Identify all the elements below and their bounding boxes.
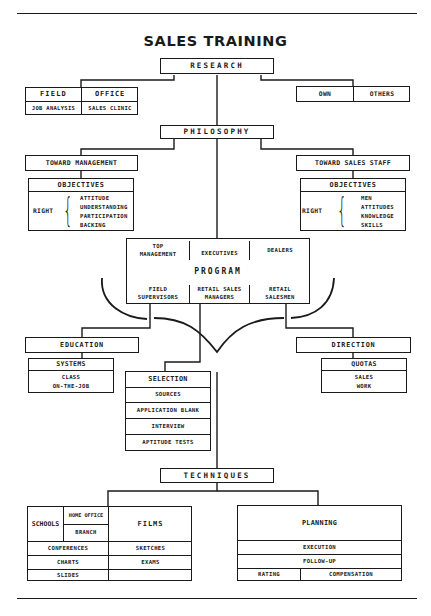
technique-cell: CONFERENCES — [28, 542, 108, 555]
techniques-right-table: PLANNING EXECUTION FOLLOW-UP RATING COMP… — [237, 505, 402, 581]
planning-label: PLANNING — [238, 506, 401, 540]
program-retail-salesmen: RETAIL SALESMEN — [250, 283, 310, 304]
selection-item: INTERVIEW — [126, 419, 210, 434]
toward-sales-staff-box: TOWARD SALES STAFF — [296, 155, 410, 171]
philosophy-box: PHILOSOPHY — [160, 125, 274, 139]
selection-item: APTITUDE TESTS — [126, 435, 210, 450]
own-label: OWN — [297, 87, 353, 101]
sales-clinic-label: SALES CLINIC — [82, 102, 138, 115]
program-retail-sales-managers: RETAIL SALES MANAGERS — [190, 283, 249, 304]
systems-label: SYSTEMS — [29, 359, 113, 370]
objective-item: SKILLS — [361, 221, 405, 230]
objective-item: PARTICIPATION — [80, 212, 134, 221]
office-label: OFFICE — [82, 88, 138, 101]
selection-item: SOURCES — [126, 388, 210, 402]
technique-cell: SLIDES — [28, 570, 108, 581]
objective-item: ATTITUDE — [80, 194, 134, 203]
education-label: EDUCATION — [26, 338, 138, 352]
toward-management-box: TOWARD MANAGEMENT — [25, 155, 138, 171]
field-office-box: FIELD OFFICE JOB ANALYSIS SALES CLINIC — [25, 87, 138, 115]
objective-item: KNOWLEDGE — [361, 212, 405, 221]
quotas-item: SALES — [322, 373, 406, 382]
schools-label: SCHOOLS — [28, 507, 63, 541]
program-dealers: DEALERS — [250, 245, 310, 257]
research-label: RESEARCH — [161, 59, 273, 73]
selection-label: SELECTION — [126, 372, 210, 387]
brace-icon: { — [337, 193, 341, 230]
direction-box: DIRECTION — [296, 337, 411, 353]
program-label: PROGRAM — [127, 265, 309, 279]
own-others-box: OWN OTHERS — [296, 86, 410, 102]
program-executives: EXECUTIVES — [190, 248, 249, 260]
films-label: FILMS — [109, 507, 192, 541]
program-field-supervisors: FIELD SUPERVISORS — [127, 283, 189, 304]
quotas-label: QUOTAS — [322, 359, 406, 370]
systems-item: CLASS — [29, 373, 113, 382]
branch-label: BRANCH — [64, 525, 108, 541]
technique-cell — [109, 570, 192, 581]
right-label: RIGHT — [302, 192, 326, 231]
management-objectives-box: OBJECTIVES RIGHT { ATTITUDE UNDERSTANDIN… — [28, 178, 134, 231]
toward-management-label: TOWARD MANAGEMENT — [26, 156, 137, 170]
job-analysis-label: JOB ANALYSIS — [26, 102, 81, 115]
home-office-label: HOME OFFICE — [64, 507, 108, 524]
program-top-management: TOP MANAGEMENT — [127, 241, 189, 261]
techniques-box: TECHNIQUES — [160, 468, 274, 483]
brace-icon: { — [63, 193, 67, 230]
quotas-box: QUOTAS SALES WORK — [321, 358, 407, 393]
field-label: FIELD — [26, 88, 81, 101]
philosophy-label: PHILOSOPHY — [161, 126, 273, 138]
toward-sales-staff-label: TOWARD SALES STAFF — [297, 156, 409, 170]
systems-item: ON-THE-JOB — [29, 382, 113, 391]
research-box: RESEARCH — [160, 58, 274, 74]
objectives-label: OBJECTIVES — [29, 179, 133, 191]
others-label: OTHERS — [354, 87, 410, 101]
objectives-label: OBJECTIVES — [301, 179, 405, 191]
right-label: RIGHT — [33, 192, 57, 231]
quotas-item: WORK — [322, 382, 406, 391]
staff-objectives-box: OBJECTIVES RIGHT { MEN ATTITUDES KNOWLED… — [300, 178, 406, 231]
objective-item: MEN — [361, 194, 405, 203]
direction-label: DIRECTION — [297, 338, 410, 352]
education-box: EDUCATION — [25, 337, 139, 353]
objective-item: BACKING — [80, 221, 134, 230]
techniques-left-table: SCHOOLS HOME OFFICE BRANCH FILMS CONFERE… — [27, 506, 192, 581]
rating-label: RATING — [238, 569, 300, 581]
follow-up-label: FOLLOW-UP — [238, 555, 401, 568]
selection-box: SELECTION SOURCES APPLICATION BLANK INTE… — [125, 371, 211, 451]
objective-item: UNDERSTANDING — [80, 203, 134, 212]
execution-label: EXECUTION — [238, 541, 401, 554]
techniques-label: TECHNIQUES — [161, 469, 273, 482]
objective-item: ATTITUDES — [361, 203, 405, 212]
technique-cell: CHARTS — [28, 556, 108, 569]
systems-box: SYSTEMS CLASS ON-THE-JOB — [28, 358, 114, 393]
technique-cell: SKETCHES — [109, 542, 192, 555]
technique-cell: EXAMS — [109, 556, 192, 569]
selection-item: APPLICATION BLANK — [126, 403, 210, 418]
program-box: TOP MANAGEMENT EXECUTIVES DEALERS PROGRA… — [126, 238, 310, 304]
compensation-label: COMPENSATION — [301, 569, 401, 581]
